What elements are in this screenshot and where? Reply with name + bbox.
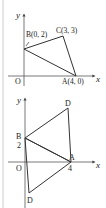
point-b-label: B(0, 2) [26, 30, 48, 39]
point-a-label: A(4, 0) [62, 77, 84, 86]
point-c-label: C(3, 3) [56, 26, 78, 35]
x-axis-label: x [95, 160, 100, 170]
origin-label: O [15, 77, 21, 86]
parallelogram-top [25, 108, 71, 162]
y-axis-label: y [16, 95, 21, 105]
pointer-b [26, 42, 29, 46]
tick-x-4: 4 [68, 164, 72, 173]
point-b-label: B [16, 132, 21, 141]
origin-label: O [16, 164, 22, 173]
tick-y-2: 2 [17, 141, 21, 150]
x-axis-label: x [95, 74, 100, 84]
figure: y x O B(0, 2) C(3, 3) A(4, 0) y x O B 2 … [0, 0, 106, 208]
point-a-label: A [69, 153, 75, 162]
diagram-1: y x O B(0, 2) C(3, 3) A(4, 0) [8, 10, 100, 86]
point-d-top-label: D [65, 99, 71, 108]
y-axis-label: y [15, 10, 20, 20]
parallelogram-bottom [25, 138, 71, 193]
triangle-abc [24, 36, 76, 76]
diagram-2: y x O B 2 A 4 D D [8, 95, 100, 208]
point-d-bottom-label: D [27, 196, 33, 205]
